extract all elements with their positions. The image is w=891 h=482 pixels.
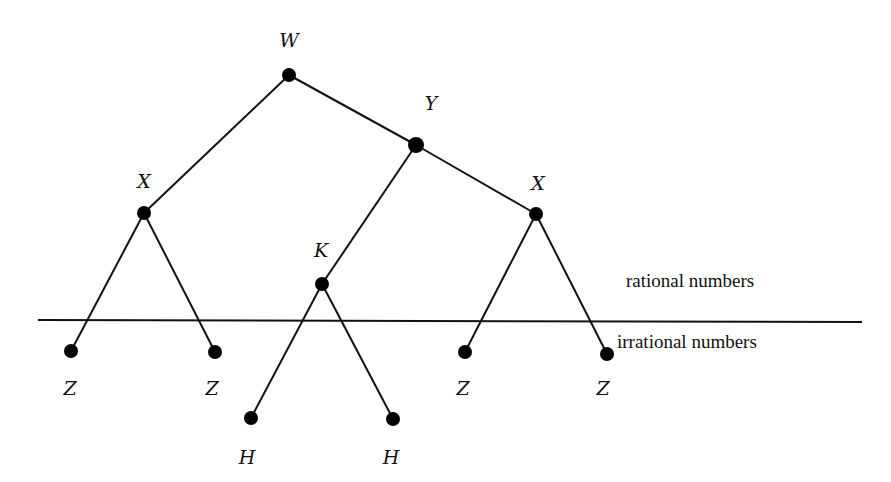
node-h1: [244, 411, 258, 425]
irrational-numbers-label: irrational numbers: [617, 331, 757, 353]
node-label-x1: X: [137, 170, 151, 192]
node-label-h2: H: [383, 446, 400, 468]
edge-x2-z3: [465, 214, 536, 352]
tree-edges: [71, 75, 607, 419]
edge-x1-z2: [144, 213, 215, 352]
node-label-x2: X: [531, 172, 545, 194]
node-label-h1: H: [239, 446, 256, 468]
edge-x2-z4: [536, 214, 607, 354]
node-label-z4: Z: [596, 377, 609, 399]
node-z3: [458, 345, 472, 359]
node-x1: [137, 206, 151, 220]
edge-k-h2: [322, 284, 393, 419]
node-label-w: W: [279, 29, 299, 51]
node-z1: [64, 344, 78, 358]
rational-numbers-label: rational numbers: [626, 270, 754, 292]
node-label-k: K: [314, 239, 328, 261]
node-x2: [529, 207, 543, 221]
node-label-z2: Z: [205, 377, 218, 399]
edge-k-h1: [251, 284, 322, 418]
edge-y-k: [322, 145, 416, 284]
node-w: [282, 68, 296, 82]
node-z2: [208, 345, 222, 359]
node-z4: [600, 347, 614, 361]
tree-nodes: [64, 68, 614, 426]
edge-w-x1: [144, 75, 289, 213]
rational-irrational-divider: [38, 320, 862, 322]
edge-w-y: [289, 75, 416, 145]
node-k: [315, 277, 329, 291]
tree-diagram: [0, 0, 891, 482]
node-label-y: Y: [425, 92, 438, 114]
edge-x1-z1: [71, 213, 144, 351]
edge-y-x2: [416, 145, 536, 214]
node-label-z1: Z: [63, 377, 76, 399]
node-y: [408, 137, 424, 153]
node-h2: [386, 412, 400, 426]
node-label-z3: Z: [456, 377, 469, 399]
